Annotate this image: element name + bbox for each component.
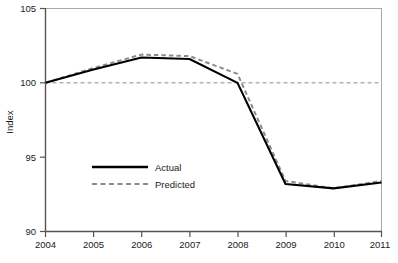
x-axis-tick-labels: 2004 2005 2006 2007 2008 2009 2010 2011 <box>35 239 390 250</box>
y-tick-label-90: 90 <box>25 226 36 237</box>
x-tick-label-2004: 2004 <box>35 239 56 250</box>
y-axis-ticks <box>40 9 45 232</box>
chart-legend: Actual Predicted <box>92 162 195 190</box>
series-line-predicted <box>46 55 382 189</box>
y-axis-title-group: Index <box>4 110 15 133</box>
y-tick-label-105: 105 <box>20 3 36 14</box>
index-line-chart: 105 100 95 90 Index 2004 2005 2006 2007 … <box>0 0 398 263</box>
x-tick-label-2007: 2007 <box>179 239 200 250</box>
y-tick-label-95: 95 <box>25 152 36 163</box>
y-axis-title: Index <box>4 110 15 133</box>
x-tick-label-2005: 2005 <box>83 239 104 250</box>
legend-label-predicted: Predicted <box>155 179 195 190</box>
series-line-actual <box>46 58 382 189</box>
legend-label-actual: Actual <box>155 162 181 173</box>
x-axis-ticks <box>46 232 382 238</box>
y-axis-tick-labels: 105 100 95 90 <box>20 3 36 237</box>
chart-container: 105 100 95 90 Index 2004 2005 2006 2007 … <box>0 0 398 263</box>
plot-frame <box>45 8 382 232</box>
x-tick-label-2009: 2009 <box>276 239 297 250</box>
x-tick-label-2011: 2011 <box>370 239 390 250</box>
x-tick-label-2008: 2008 <box>227 239 248 250</box>
y-tick-label-100: 100 <box>20 77 36 88</box>
x-tick-label-2006: 2006 <box>131 239 152 250</box>
x-tick-label-2010: 2010 <box>324 239 345 250</box>
